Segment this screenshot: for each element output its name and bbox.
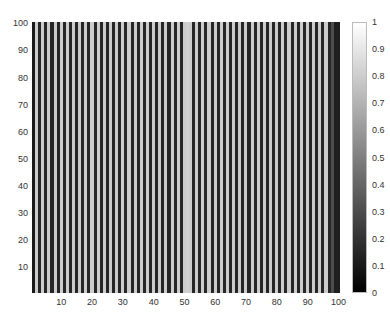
y-tick-label: 60 bbox=[18, 127, 28, 137]
y-tick-label: 70 bbox=[18, 100, 28, 110]
y-tick-label: 10 bbox=[18, 262, 28, 272]
image-column bbox=[337, 22, 340, 293]
colorbar-tick-label: 0.5 bbox=[372, 153, 385, 163]
x-tick-label: 70 bbox=[241, 297, 251, 307]
y-tick-label: 50 bbox=[18, 154, 28, 164]
colorbar bbox=[352, 22, 367, 293]
y-tick-label: 40 bbox=[18, 181, 28, 191]
y-tick-label: 30 bbox=[18, 208, 28, 218]
x-tick-label: 10 bbox=[56, 297, 66, 307]
colorbar-tick-label: 0.3 bbox=[372, 207, 385, 217]
colorbar-tick-label: 0 bbox=[372, 288, 377, 298]
y-tick-label: 100 bbox=[13, 18, 28, 28]
colorbar-tick-label: 0.4 bbox=[372, 180, 385, 190]
colorbar-tick-label: 0.6 bbox=[372, 125, 385, 135]
colorbar-tick-label: 1 bbox=[372, 17, 377, 27]
colorbar-tick-label: 0.2 bbox=[372, 234, 385, 244]
x-tick-label: 30 bbox=[118, 297, 128, 307]
x-tick-label: 90 bbox=[303, 297, 313, 307]
x-tick-label: 80 bbox=[272, 297, 282, 307]
x-tick-label: 100 bbox=[331, 297, 346, 307]
y-tick-label: 90 bbox=[18, 45, 28, 55]
y-tick-label: 20 bbox=[18, 235, 28, 245]
x-tick-label: 60 bbox=[210, 297, 220, 307]
x-tick-label: 50 bbox=[179, 297, 189, 307]
x-tick-label: 20 bbox=[87, 297, 97, 307]
y-tick-label: 80 bbox=[18, 73, 28, 83]
x-tick-label: 40 bbox=[149, 297, 159, 307]
colorbar-tick-label: 0.1 bbox=[372, 261, 385, 271]
colorbar-tick-label: 0.8 bbox=[372, 71, 385, 81]
colorbar-tick-label: 0.9 bbox=[372, 44, 385, 54]
colorbar-tick-label: 0.7 bbox=[372, 98, 385, 108]
heatmap-image bbox=[32, 22, 340, 293]
